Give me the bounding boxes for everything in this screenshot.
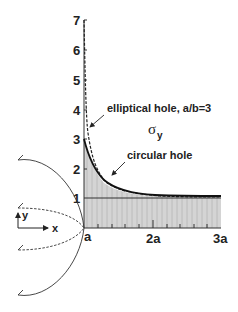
- y-tick-5: 5: [73, 73, 80, 88]
- circle-end-marks: [18, 155, 23, 295]
- y-tick-7: 7: [73, 13, 80, 28]
- elliptical-hole-label: elliptical hole, a/b=3: [107, 102, 211, 114]
- x-tick-2a: 2a: [146, 231, 161, 246]
- x-tick-3a: 3a: [213, 231, 228, 246]
- circular-hole-label: circular hole: [127, 149, 192, 161]
- sigma-subscript: y: [157, 130, 163, 141]
- elliptical-arrow: [90, 115, 104, 127]
- circular-arrow: [112, 162, 125, 175]
- y-tick-6: 6: [73, 43, 80, 58]
- axis-x-label: x: [52, 222, 59, 234]
- axis-y-label: y: [22, 209, 29, 221]
- sigma-symbol: σ: [148, 121, 156, 137]
- y-tick-1: 1: [73, 191, 80, 206]
- x-tick-a: a: [84, 229, 92, 244]
- y-tick-2: 2: [73, 162, 80, 177]
- y-tick-4: 4: [73, 103, 81, 118]
- y-tick-3: 3: [73, 132, 80, 147]
- stress-concentration-diagram: 7 6 5 4 3 2 1 a 2a 3a elliptical hole, a…: [0, 0, 238, 312]
